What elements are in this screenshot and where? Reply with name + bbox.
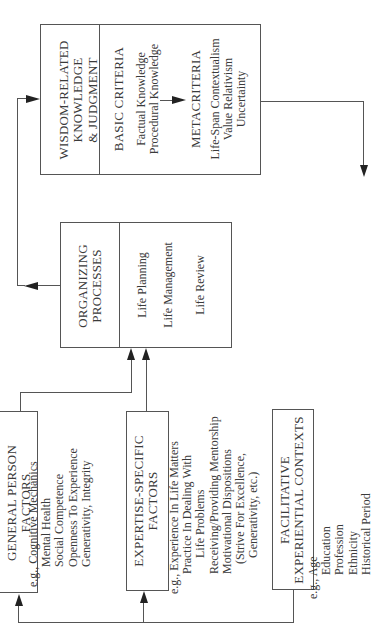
organizing-title-line: ORGANIZING — [76, 236, 90, 336]
arrow-up-icon — [127, 348, 135, 360]
bottom-to-expertise-v — [143, 603, 144, 623]
example-item: Experience In Life Matters — [167, 441, 181, 571]
facilitative-title-line: EXPERIENTIAL CONTEXTS — [292, 410, 306, 590]
example-item: Motivational Dispositions — [221, 408, 234, 594]
feedback-line-bottom-stub — [17, 285, 25, 286]
basic-criteria-item: Procedural Knowledge — [148, 39, 161, 159]
arrow-up-icon — [142, 348, 150, 360]
example-item: Openness To Experience — [67, 417, 80, 587]
arrow-right-icon — [26, 95, 40, 103]
general-person-examples: e.g., Cognitive Mechanics Mental Health … — [27, 417, 103, 587]
example-item: Age — [306, 556, 320, 576]
example-item: Historical Period — [360, 493, 373, 599]
example-item: Profession — [333, 493, 346, 599]
metacriteria-items: Life-Span Contextualism Value Relativism… — [209, 34, 253, 164]
organizing-divider — [119, 222, 120, 348]
arrow-right-icon — [172, 96, 186, 104]
feedback-line-v — [17, 98, 18, 286]
general-to-organizing-stub — [20, 392, 21, 411]
general-to-organizing-v — [131, 360, 132, 393]
eg-label: e.g., — [306, 579, 320, 599]
arrow-down-icon — [360, 165, 368, 177]
wisdom-output-line-v — [363, 101, 364, 165]
general-title-line: GENERAL PERSON — [5, 413, 19, 593]
expertise-title: EXPERTISE-SPECIFIC FACTORS — [132, 411, 162, 591]
eg-label: e.g., — [167, 574, 181, 594]
organizing-item-life-review: Life Review — [194, 235, 210, 335]
arrow-up-icon — [140, 591, 148, 603]
example-item: Generativity, Integrity — [80, 417, 93, 587]
basic-criteria-items: Factual Knowledge Procedural Knowledge — [135, 39, 165, 159]
general-to-organizing-h — [20, 392, 132, 393]
example-item: Generativity, etc.) — [247, 408, 260, 594]
arrow-up-icon — [15, 594, 23, 606]
metacriteria-item: Uncertainty — [235, 34, 248, 164]
basic-to-meta-connector — [160, 100, 172, 101]
feedback-line-bottom — [36, 285, 60, 286]
organizing-title: ORGANIZING PROCESSES — [76, 236, 104, 336]
wisdom-output-line-h — [261, 101, 364, 102]
facilitative-title: FACILITATIVE EXPERIENTIAL CONTEXTS — [278, 410, 308, 590]
organizing-item-life-planning: Life Planning — [136, 235, 152, 335]
example-item: Receiving/Providing Mentorship — [208, 408, 221, 594]
facilitative-down-line — [293, 590, 294, 623]
facilitative-examples: e.g., Age Education Profession Ethnicity… — [307, 493, 381, 599]
metacriteria-title: METACRITERIA — [189, 44, 205, 154]
expertise-to-organizing-v — [146, 360, 147, 411]
example-item: Life Problems — [194, 408, 207, 594]
expertise-examples: e.g., Experience In Life Matters Practic… — [168, 408, 274, 594]
bottom-connector-h — [18, 622, 294, 623]
wisdom-title-line: KNOWLEDGE — [71, 25, 85, 175]
expertise-title-line: EXPERTISE-SPECIFIC — [132, 411, 146, 591]
wisdom-title-line: & JUDGMENT — [86, 25, 100, 175]
eg-label: e.g., — [26, 567, 40, 587]
bottom-to-general-v — [18, 605, 19, 623]
basic-criteria-title: BASIC CRITERIA — [112, 39, 128, 159]
facilitative-title-line: FACILITATIVE — [278, 410, 292, 590]
example-item: Ethnicity — [347, 493, 360, 599]
example-item: Cognitive Mechanics — [26, 461, 40, 563]
organizing-title-line: PROCESSES — [90, 236, 104, 336]
wisdom-title: WISDOM-RELATED KNOWLEDGE & JUDGMENT — [57, 25, 83, 175]
organizing-item-life-management: Life Management — [162, 235, 178, 335]
expertise-title-line: FACTORS — [146, 411, 160, 591]
arrow-left-icon — [24, 282, 38, 290]
wisdom-title-line: WISDOM-RELATED — [57, 25, 71, 175]
example-item: Social Competence — [53, 417, 66, 587]
